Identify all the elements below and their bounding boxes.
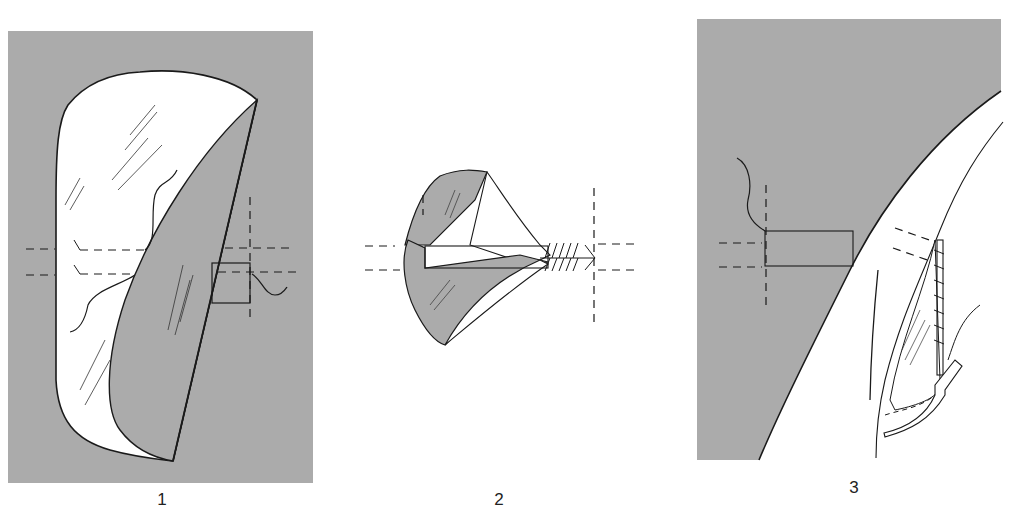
rolled-flap-white — [470, 172, 550, 265]
panel-3 — [697, 19, 1003, 460]
figure-canvas — [0, 0, 1011, 515]
panel-3-label: 3 — [849, 478, 858, 498]
panel-1-label: 1 — [157, 490, 166, 510]
panel-1 — [8, 31, 313, 483]
panel-2 — [365, 170, 640, 345]
panel-3-background — [697, 19, 1001, 460]
panel-2-label: 2 — [494, 490, 503, 510]
